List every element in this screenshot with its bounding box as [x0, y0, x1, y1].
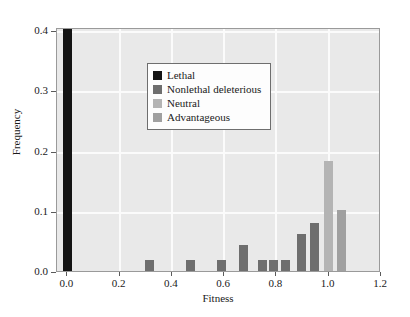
y-tick-mark — [51, 31, 56, 32]
legend-label: Lethal — [167, 69, 195, 81]
x-tick-label: 1.0 — [308, 277, 348, 290]
y-tick-mark — [51, 152, 56, 153]
histogram-bar — [310, 223, 319, 271]
legend-label: Nonlethal deleterious — [167, 83, 261, 95]
x-tick-mark — [171, 272, 172, 276]
y-tick-label: 0.4 — [8, 25, 48, 36]
x-tick-mark — [275, 272, 276, 276]
x-tick-label: 0.4 — [151, 277, 191, 290]
x-tick-mark — [223, 272, 224, 276]
histogram-bar — [217, 260, 226, 271]
legend-item: Lethal — [153, 68, 261, 82]
histogram-bar — [269, 260, 278, 271]
legend-color-swatch — [153, 85, 162, 94]
gridline-vertical — [275, 29, 277, 271]
gridline-horizontal — [57, 152, 379, 154]
y-tick-mark — [51, 272, 56, 273]
legend-label: Advantageous — [167, 111, 230, 123]
legend-item: Nonlethal deleterious — [153, 82, 261, 96]
histogram-bar — [186, 260, 195, 271]
legend-color-swatch — [153, 99, 162, 108]
gridline-horizontal — [57, 31, 379, 33]
histogram-bar — [63, 28, 72, 271]
histogram-figure: 0.00.20.40.60.81.01.2 0.00.10.20.30.4 Fi… — [0, 0, 410, 317]
x-tick-label: 1.2 — [360, 277, 400, 290]
histogram-bar — [281, 260, 290, 271]
chart-legend: LethalNonlethal deleteriousNeutralAdvant… — [147, 63, 271, 130]
histogram-bar — [337, 210, 346, 271]
legend-label: Neutral — [167, 97, 200, 109]
x-tick-mark — [66, 272, 67, 276]
x-tick-mark — [380, 272, 381, 276]
y-tick-label: 0.0 — [8, 266, 48, 277]
x-axis-label: Fitness — [56, 292, 380, 304]
x-tick-label: 0.2 — [99, 277, 139, 290]
histogram-bar — [239, 245, 248, 271]
x-tick-mark — [328, 272, 329, 276]
legend-item: Advantageous — [153, 110, 261, 124]
legend-color-swatch — [153, 113, 162, 122]
y-tick-label: 0.1 — [8, 206, 48, 217]
legend-item: Neutral — [153, 96, 261, 110]
histogram-bar — [145, 260, 154, 271]
legend-color-swatch — [153, 71, 162, 80]
x-tick-label: 0.6 — [203, 277, 243, 290]
y-tick-mark — [51, 91, 56, 92]
histogram-bar — [297, 234, 306, 271]
histogram-bar — [258, 260, 267, 271]
gridline-vertical — [119, 29, 121, 271]
y-tick-mark — [51, 212, 56, 213]
histogram-bar — [324, 161, 333, 271]
x-tick-label: 0.8 — [255, 277, 295, 290]
x-tick-label: 0.0 — [46, 277, 86, 290]
y-axis-label: Frequency — [10, 72, 22, 192]
x-tick-mark — [119, 272, 120, 276]
